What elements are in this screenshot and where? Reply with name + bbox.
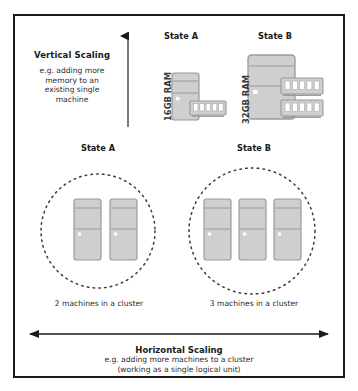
- horizontal-scaling-description: e.g. adding more machines to a cluster(w…: [59, 355, 299, 374]
- vertical-state-a-label: State A: [146, 31, 216, 42]
- horizontal-state-b-label: State B: [215, 143, 293, 154]
- cluster-b-caption: 3 machines in a cluster: [198, 299, 310, 309]
- horizontal-desc-line1: e.g. adding more machines to a cluster: [104, 355, 253, 364]
- cluster-a-caption: 2 machines in a cluster: [44, 299, 154, 309]
- vertical-scaling-description: e.g. adding more memory to an existing s…: [22, 66, 122, 105]
- vertical-scaling-title: Vertical Scaling: [24, 50, 120, 61]
- diagram-canvas: Vertical Scaling e.g. adding more memory…: [0, 0, 358, 391]
- ram-label-state-a: 16GB RAM: [163, 72, 173, 121]
- horizontal-desc-line2: (working as a single logical unit): [117, 365, 240, 374]
- ram-label-state-b: 32GB RAM: [241, 75, 251, 124]
- horizontal-state-a-label: State A: [62, 143, 134, 154]
- vertical-state-b-label: State B: [236, 31, 314, 42]
